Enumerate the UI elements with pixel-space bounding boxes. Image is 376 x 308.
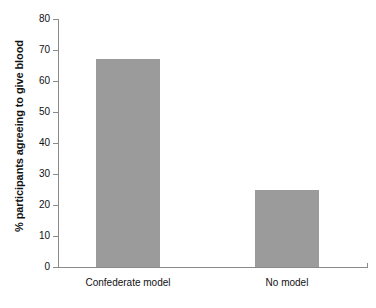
y-axis-tick-mark [53,143,58,144]
y-axis-tick-mark [53,174,58,175]
y-axis-tick-mark [53,19,58,20]
bar [96,59,160,267]
y-axis-line [58,19,59,268]
x-axis-category-label: No model [207,277,367,289]
bar [255,190,319,268]
y-axis-tick-label: 40 [10,138,50,148]
y-axis-tick-mark [53,112,58,113]
y-axis-tick-mark [53,267,58,268]
x-axis-end-tick [367,263,368,268]
x-axis-category-label: Confederate model [48,277,208,289]
y-axis-tick-label: 10 [10,231,50,241]
y-axis-tick-mark [53,50,58,51]
y-axis-tick-mark [53,236,58,237]
y-axis-tick-label: 30 [10,169,50,179]
y-axis-tick-mark [53,81,58,82]
x-axis-line [58,267,368,268]
y-axis-title: % participants agreeing to give blood [8,2,30,270]
y-axis-tick-label: 80 [10,14,50,24]
y-axis-tick-label: 70 [10,45,50,55]
y-axis-tick-label: 50 [10,107,50,117]
bar-chart: % participants agreeing to give blood 01… [0,0,376,308]
y-axis-tick-label: 60 [10,76,50,86]
y-axis-tick-mark [53,205,58,206]
y-axis-tick-label: 20 [10,200,50,210]
y-axis-tick-label: 0 [10,262,50,272]
